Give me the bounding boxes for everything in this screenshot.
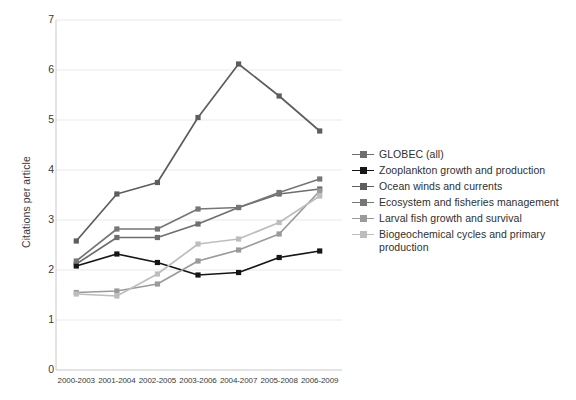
data-point-marker [236, 247, 241, 252]
data-point-marker [277, 220, 282, 225]
data-point-marker [74, 238, 79, 243]
data-point-marker [195, 221, 200, 226]
data-point-marker [277, 255, 282, 260]
data-point-marker [114, 293, 119, 298]
legend-line-marker-icon [352, 180, 374, 193]
data-point-marker [317, 176, 322, 181]
legend-line-marker-icon [352, 196, 374, 209]
chart-legend: GLOBEC (all)Zooplankton growth and produ… [352, 148, 574, 257]
legend-item[interactable]: Ocean winds and currents [352, 180, 574, 193]
x-axis-tick: 2003-2006 [179, 376, 216, 385]
x-axis-tick: 2006-2009 [301, 376, 338, 385]
legend-line-marker-icon [352, 228, 374, 241]
legend-line-marker-icon [352, 212, 374, 225]
series-line [74, 186, 323, 266]
axis-lines [56, 20, 342, 370]
data-point-marker [74, 291, 79, 296]
legend-item-label: Larval fish growth and survival [379, 212, 522, 225]
x-axis-tick: 2002-2005 [139, 376, 176, 385]
legend-item[interactable]: Biogeochemical cycles and primary produc… [352, 228, 574, 253]
legend-item-label: GLOBEC (all) [379, 148, 444, 161]
chart-figure: Citations per article 76543210 GLOBEC (a… [0, 0, 576, 400]
data-point-marker [317, 128, 322, 133]
data-point-marker [114, 191, 119, 196]
legend-line-marker-icon [352, 148, 374, 161]
x-axis-tick: 2000-2003 [58, 376, 95, 385]
legend-item[interactable]: Ecosystem and fisheries management [352, 196, 574, 209]
legend-item-label: Ecosystem and fisheries management [379, 196, 559, 209]
data-point-marker [74, 263, 79, 268]
data-point-marker [236, 236, 241, 241]
data-point-marker [155, 281, 160, 286]
legend-item[interactable]: GLOBEC (all) [352, 148, 574, 161]
data-point-marker [195, 206, 200, 211]
legend-item-label: Zooplankton growth and production [379, 164, 545, 177]
data-point-marker [114, 226, 119, 231]
data-point-marker [236, 205, 241, 210]
data-point-marker [155, 180, 160, 185]
data-point-marker [114, 288, 119, 293]
series-line [74, 61, 323, 243]
data-point-marker [277, 93, 282, 98]
legend-item[interactable]: Larval fish growth and survival [352, 212, 574, 225]
data-point-marker [317, 248, 322, 253]
legend-item[interactable]: Zooplankton growth and production [352, 164, 574, 177]
legend-item-label: Biogeochemical cycles and primary produc… [379, 228, 574, 253]
data-point-marker [155, 260, 160, 265]
data-point-marker [195, 258, 200, 263]
data-point-marker [195, 241, 200, 246]
data-point-marker [195, 115, 200, 120]
data-point-marker [114, 251, 119, 256]
data-point-marker [236, 61, 241, 66]
x-axis-tick: 2004-2007 [220, 376, 257, 385]
data-point-marker [277, 231, 282, 236]
data-point-marker [277, 190, 282, 195]
data-point-marker [317, 188, 322, 193]
data-point-marker [155, 271, 160, 276]
data-point-marker [155, 226, 160, 231]
data-point-marker [195, 272, 200, 277]
data-point-marker [74, 258, 79, 263]
x-axis-tick: 2005-2008 [260, 376, 297, 385]
data-point-marker [155, 235, 160, 240]
data-point-marker [114, 235, 119, 240]
legend-line-marker-icon [352, 164, 374, 177]
data-point-marker [236, 270, 241, 275]
data-point-marker [317, 193, 322, 198]
legend-item-label: Ocean winds and currents [379, 180, 502, 193]
x-axis-tick: 2001-2004 [98, 376, 135, 385]
